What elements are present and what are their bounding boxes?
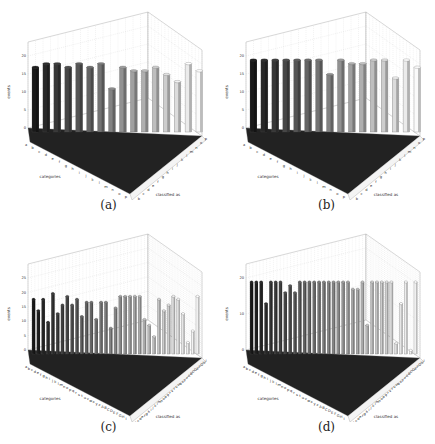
panel-b: 05101520eventsaabbccddeeffgghhiijjkkllmm… bbox=[218, 0, 435, 222]
svg-text:classified as: classified as bbox=[156, 414, 180, 419]
svg-text:i: i bbox=[172, 167, 173, 171]
svg-text:5: 5 bbox=[242, 108, 244, 112]
svg-text:u: u bbox=[84, 396, 86, 400]
panel-c: 0510152025eventsaabbccddeeffgghhiijjkkll… bbox=[0, 222, 217, 444]
svg-text:events: events bbox=[6, 85, 11, 98]
svg-text:i: i bbox=[390, 167, 391, 171]
svg-text:h: h bbox=[45, 376, 47, 380]
svg-text:g: g bbox=[283, 164, 285, 168]
svg-text:20: 20 bbox=[21, 54, 26, 58]
chart-b: 05101520eventsaabbccddeeffgghhiijjkkllmm… bbox=[218, 0, 435, 200]
svg-text:n: n bbox=[413, 146, 415, 150]
svg-text:events: events bbox=[6, 307, 11, 320]
svg-text:d: d bbox=[45, 153, 47, 157]
chart-c: 0510152025eventsaabbccddeeffgghhiijjkkll… bbox=[0, 222, 217, 422]
svg-text:k: k bbox=[399, 158, 402, 162]
svg-text:i: i bbox=[79, 171, 80, 175]
svg-text:H: H bbox=[122, 415, 125, 419]
svg-text:a: a bbox=[25, 143, 27, 147]
svg-text:c: c bbox=[38, 150, 40, 154]
svg-text:h: h bbox=[166, 171, 168, 175]
svg-text:5: 5 bbox=[24, 108, 26, 112]
svg-text:n: n bbox=[112, 188, 114, 192]
svg-text:c: c bbox=[361, 192, 363, 196]
svg-text:q: q bbox=[72, 389, 74, 393]
svg-text:p: p bbox=[205, 137, 208, 141]
svg-text:0: 0 bbox=[24, 348, 27, 352]
svg-text:0: 0 bbox=[242, 126, 245, 130]
caption-a: (a) bbox=[0, 198, 217, 212]
svg-text:n: n bbox=[330, 188, 332, 192]
svg-text:s: s bbox=[78, 393, 80, 397]
svg-text:k: k bbox=[181, 158, 184, 162]
svg-text:n: n bbox=[195, 146, 197, 150]
svg-text:i: i bbox=[267, 377, 268, 381]
svg-text:g: g bbox=[261, 374, 263, 378]
svg-text:h: h bbox=[384, 171, 386, 175]
svg-text:n: n bbox=[281, 385, 283, 389]
svg-text:h: h bbox=[72, 167, 74, 171]
svg-text:25: 25 bbox=[21, 276, 26, 280]
svg-text:classified as: classified as bbox=[374, 414, 398, 419]
svg-text:m: m bbox=[322, 185, 326, 189]
svg-text:H: H bbox=[340, 415, 343, 419]
svg-text:I: I bbox=[423, 359, 424, 363]
svg-text:d: d bbox=[147, 188, 149, 192]
svg-text:j: j bbox=[51, 379, 53, 383]
svg-text:j: j bbox=[303, 174, 305, 178]
svg-text:l: l bbox=[186, 154, 187, 158]
svg-text:a: a bbox=[25, 365, 27, 369]
svg-text:10: 10 bbox=[239, 90, 244, 94]
svg-text:f: f bbox=[59, 160, 61, 164]
svg-text:0: 0 bbox=[242, 348, 245, 352]
svg-text:q: q bbox=[290, 389, 292, 393]
svg-text:g: g bbox=[43, 374, 45, 378]
svg-text:c: c bbox=[249, 368, 251, 372]
chart-a: 05101520eventsaabbccddeeffgghhiijjkkllmm… bbox=[0, 0, 217, 200]
svg-text:events: events bbox=[224, 307, 229, 320]
svg-text:l: l bbox=[404, 154, 405, 158]
panel-a: 05101520eventsaabbccddeeffgghhiijjkkllmm… bbox=[0, 0, 217, 222]
svg-text:f: f bbox=[277, 160, 279, 164]
svg-text:categories: categories bbox=[258, 174, 279, 179]
svg-text:d: d bbox=[34, 370, 36, 374]
svg-text:u: u bbox=[302, 396, 304, 400]
svg-text:h: h bbox=[263, 376, 265, 380]
svg-text:p: p bbox=[423, 137, 426, 141]
svg-text:l: l bbox=[99, 181, 100, 185]
svg-text:r: r bbox=[75, 391, 77, 395]
caption-c: (c) bbox=[0, 420, 217, 434]
svg-text:0: 0 bbox=[24, 126, 27, 130]
svg-text:r: r bbox=[293, 391, 295, 395]
svg-text:c: c bbox=[143, 192, 145, 196]
svg-text:k: k bbox=[92, 178, 95, 182]
svg-text:c: c bbox=[256, 150, 258, 154]
svg-text:categories: categories bbox=[40, 174, 61, 179]
svg-text:m: m bbox=[190, 150, 194, 154]
svg-text:I: I bbox=[205, 359, 206, 363]
svg-text:m: m bbox=[104, 185, 108, 189]
svg-text:o: o bbox=[336, 192, 338, 196]
svg-text:10: 10 bbox=[21, 90, 26, 94]
svg-text:m: m bbox=[408, 150, 412, 154]
svg-text:g: g bbox=[65, 164, 67, 168]
svg-text:i: i bbox=[368, 408, 369, 412]
svg-text:e: e bbox=[152, 184, 155, 188]
svg-text:o: o bbox=[284, 386, 286, 390]
svg-text:l: l bbox=[317, 181, 318, 185]
svg-text:classified as: classified as bbox=[156, 192, 180, 197]
svg-text:o: o bbox=[200, 141, 202, 145]
svg-text:i: i bbox=[297, 171, 298, 175]
svg-text:k: k bbox=[310, 178, 313, 182]
svg-text:a: a bbox=[243, 143, 245, 147]
svg-text:20: 20 bbox=[21, 291, 26, 295]
svg-text:20: 20 bbox=[239, 276, 244, 280]
svg-text:classified as: classified as bbox=[374, 192, 398, 197]
svg-text:e: e bbox=[52, 157, 55, 161]
svg-text:j: j bbox=[394, 163, 396, 167]
svg-text:20: 20 bbox=[239, 54, 244, 58]
svg-text:o: o bbox=[418, 141, 420, 145]
svg-text:i: i bbox=[150, 408, 151, 412]
svg-text:e: e bbox=[370, 184, 373, 188]
chart-d: 01020eventsaabbccddeeffgghhiijjkkllmmnno… bbox=[218, 222, 435, 422]
